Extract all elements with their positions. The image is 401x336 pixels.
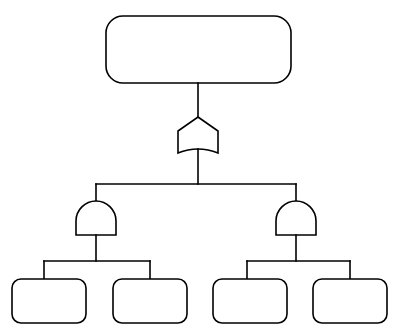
- and-gate-left-shape: [76, 201, 116, 235]
- leaf-box-1-shape: [12, 279, 86, 323]
- diagram-canvas: [0, 0, 401, 336]
- leaf-box-3-shape: [213, 279, 287, 323]
- or-gate-shape: [178, 117, 218, 153]
- leaf-box-4-shape: [313, 279, 387, 323]
- and-gate-right-shape: [276, 201, 316, 235]
- top-event-box-shape: [106, 16, 291, 83]
- leaf-box-2-shape: [113, 279, 187, 323]
- fault-tree-diagram: [0, 0, 401, 336]
